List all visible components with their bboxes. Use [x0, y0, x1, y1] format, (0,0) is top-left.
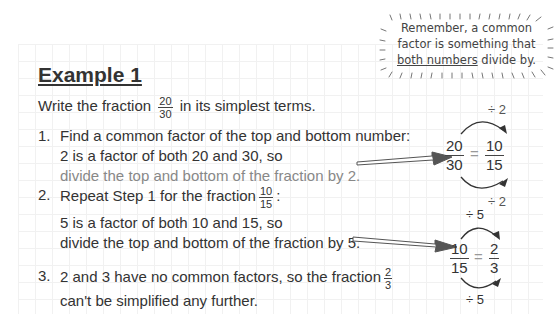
fraction-denominator: 15 — [451, 259, 468, 277]
curved-arrow-bottom-icon — [455, 175, 515, 197]
step-2-line-3: divide the top and bottom of the fractio… — [60, 233, 360, 253]
step-number: 3. — [38, 266, 51, 286]
fraction-numerator: 10 — [259, 185, 273, 198]
diagram-2-right-fraction: 2 3 — [489, 240, 499, 277]
fraction-numerator: 2 — [384, 266, 392, 279]
step-1-line-1: Find a common factor of the top and bott… — [60, 126, 410, 146]
arrow-to-diagram-1-icon — [357, 150, 457, 170]
step-3-line-1: 2 and 3 have no common factors, so the f… — [60, 266, 395, 291]
divide-bottom-label: ÷ 2 — [488, 194, 506, 209]
example-title: Example 1 — [38, 63, 142, 87]
diagram-1-right-fraction: 10 15 — [485, 137, 504, 174]
step-2-colon: : — [276, 187, 280, 204]
step-number: 1. — [38, 126, 51, 146]
fraction-denominator: 15 — [486, 156, 503, 174]
step-3-fraction: 23 — [384, 266, 392, 291]
note-line-3: both numbers divide by. — [389, 52, 544, 68]
note-line-3-rest: divide by. — [478, 53, 536, 67]
step-2-fraction: 1015 — [259, 185, 273, 210]
equals-sign: = — [470, 145, 479, 162]
fraction-numerator: 2 — [489, 240, 499, 259]
step-number: 2. — [38, 185, 51, 205]
note-underlined-phrase: both numbers — [397, 53, 478, 67]
step-3-line-1-text: 2 and 3 have no common factors, so the f… — [60, 268, 381, 285]
equals-sign: = — [474, 248, 483, 265]
reminder-note: Remember, a common factor is something t… — [389, 20, 544, 70]
fraction-denominator: 3 — [385, 279, 391, 291]
step-2-line-1-text: Repeat Step 1 for the fraction — [60, 187, 256, 204]
example-intro: Write the fraction 20 30 in its simplest… — [38, 95, 316, 120]
fraction-numerator: 10 — [450, 240, 469, 259]
fraction-denominator: 15 — [260, 198, 272, 210]
curved-arrow-top-icon — [455, 112, 515, 137]
arrow-to-diagram-2-icon — [353, 233, 463, 255]
divide-bottom-label: ÷ 5 — [466, 292, 484, 307]
fraction-numerator: 10 — [485, 137, 504, 156]
intro-text-before: Write the fraction — [38, 97, 151, 114]
intro-fraction-denominator: 30 — [159, 108, 171, 120]
fraction-denominator: 30 — [446, 156, 463, 174]
intro-fraction: 20 30 — [158, 95, 172, 120]
step-2-line-1: Repeat Step 1 for the fraction1015: — [60, 185, 360, 210]
step-2-line-2: 5 is a factor of both 10 and 15, so — [60, 213, 360, 233]
intro-text-after: in its simplest terms. — [180, 97, 316, 114]
note-line-2: factor is something that — [389, 36, 544, 52]
diagram-2-left-fraction: 10 15 — [450, 240, 469, 277]
fraction-numerator: 20 — [445, 137, 464, 156]
curved-arrow-top-icon — [456, 219, 506, 241]
intro-fraction-numerator: 20 — [158, 95, 172, 108]
fraction-denominator: 3 — [490, 259, 498, 277]
step-3-line-2: can't be simplified any further. — [60, 291, 395, 311]
note-line-1: Remember, a common — [389, 20, 544, 36]
diagram-1-left-fraction: 20 30 — [445, 137, 464, 174]
